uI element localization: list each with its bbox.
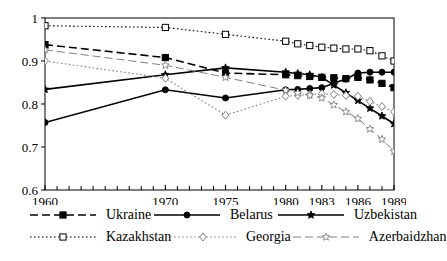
legend-row-2: Kazakhstan Georgia Azerbaidzhan: [0, 227, 406, 247]
legend-item-ukraine[interactable]: Ukraine: [28, 205, 152, 225]
legend-label-georgia: Georgia: [240, 229, 291, 245]
y-tick-label: 1: [32, 11, 39, 26]
x-tick-label: 1960: [32, 194, 58, 205]
series-line: [45, 68, 394, 124]
x-tick-label: 1989: [381, 194, 406, 205]
series-layer: [41, 23, 398, 155]
series-line: [45, 50, 394, 151]
x-tick-label: 1986: [345, 194, 372, 205]
chart-canvas: 0.60.70.80.91196019701975198019831986198…: [0, 0, 406, 205]
legend-item-belarus[interactable]: Belarus: [152, 205, 276, 225]
legend-label-belarus: Belarus: [224, 207, 273, 223]
legend-key-ukraine: [28, 207, 100, 223]
chart-legend: Ukraine Belarus Uzbekistan Kazakhstan Ge…: [0, 205, 406, 261]
legend-label-kazakhstan: Kazakhstan: [100, 229, 171, 245]
legend-key-uzbekistan: [276, 207, 348, 223]
legend-label-uzbekistan: Uzbekistan: [348, 207, 417, 223]
legend-key-azerbaidzhan: [291, 229, 363, 245]
series-kazakhstan: [42, 23, 397, 64]
y-tick-label: 0.8: [22, 97, 38, 112]
series-georgia: [42, 57, 398, 119]
x-tick-label: 1970: [152, 194, 178, 205]
legend-item-kazakhstan[interactable]: Kazakhstan: [28, 227, 168, 247]
y-tick-label: 0.9: [22, 54, 38, 69]
plot-frame: [45, 18, 394, 190]
y-tick-label: 0.7: [22, 140, 39, 155]
line-chart: 0.60.70.80.91196019701975198019831986198…: [0, 0, 406, 200]
series-azerbaidzhan: [41, 46, 398, 155]
series-line: [45, 72, 394, 122]
series-line: [45, 26, 394, 61]
legend-key-belarus: [152, 207, 224, 223]
legend-label-azerbaidzhan: Azerbaidzhan: [363, 229, 447, 245]
legend-item-uzbekistan[interactable]: Uzbekistan: [276, 205, 406, 225]
legend-row-1: Ukraine Belarus Uzbekistan: [0, 205, 406, 225]
legend-item-azerbaidzhan[interactable]: Azerbaidzhan: [291, 227, 421, 247]
x-tick-label: 1980: [273, 194, 299, 205]
x-tick-label: 1975: [213, 194, 239, 205]
legend-key-kazakhstan: [28, 229, 100, 245]
legend-key-georgia: [168, 229, 240, 245]
legend-item-georgia[interactable]: Georgia: [168, 227, 291, 247]
x-tick-label: 1983: [309, 194, 335, 205]
legend-label-ukraine: Ukraine: [100, 207, 151, 223]
